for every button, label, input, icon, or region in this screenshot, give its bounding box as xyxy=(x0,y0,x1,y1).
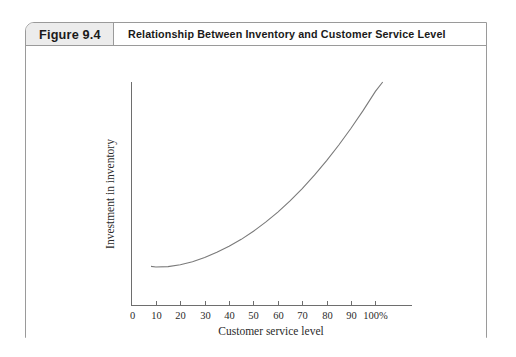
figure-number-cell: Figure 9.4 xyxy=(26,23,114,45)
x-axis-tick-label: 100% xyxy=(363,310,388,321)
x-axis-tick-label: 50 xyxy=(248,310,259,321)
plot-area: 0102030405060708090100% Customer service… xyxy=(26,46,486,338)
x-axis-tick-label: 10 xyxy=(151,310,162,321)
figure-title: Relationship Between Inventory and Custo… xyxy=(128,28,446,40)
x-axis-tick-label: 60 xyxy=(273,310,284,321)
x-axis-tick-label: 70 xyxy=(297,310,308,321)
x-axis-tick-labels: 0102030405060708090100% xyxy=(130,310,388,321)
inventory-curve xyxy=(151,82,383,267)
x-axis-tick-label: 0 xyxy=(130,310,135,321)
chart-svg: 0102030405060708090100% Customer service… xyxy=(26,46,486,338)
figure-header: Figure 9.4 Relationship Between Inventor… xyxy=(26,23,486,46)
x-axis-tick-label: 40 xyxy=(224,310,235,321)
x-axis-tick-label: 90 xyxy=(346,310,357,321)
figure-number-label: Figure 9.4 xyxy=(39,27,101,42)
figure-title-cell: Relationship Between Inventory and Custo… xyxy=(114,23,486,45)
x-axis-tick-label: 80 xyxy=(322,310,333,321)
y-axis-title: Investment in inventory xyxy=(104,139,117,249)
x-axis-tick-label: 20 xyxy=(175,310,186,321)
figure-frame: Figure 9.4 Relationship Between Inventor… xyxy=(25,22,487,338)
x-axis-title: Customer service level xyxy=(218,325,323,337)
x-axis-ticks xyxy=(157,301,376,306)
x-axis-tick-label: 30 xyxy=(200,310,211,321)
